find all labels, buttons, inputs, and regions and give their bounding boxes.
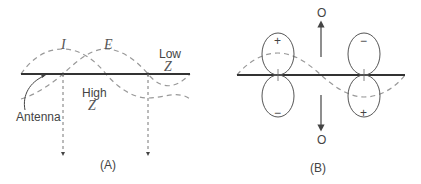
- sign-right-bottom: +: [360, 106, 367, 120]
- sign-left-bottom: −: [274, 106, 281, 120]
- top-null-label: O: [317, 6, 326, 20]
- current-label: I: [60, 37, 67, 52]
- bottom-null-label: O: [317, 133, 326, 147]
- diagram-a: I E Low Z High Z Antenna (A): [16, 37, 190, 172]
- voltage-label: E: [103, 37, 113, 52]
- caption-a: (A): [100, 158, 116, 172]
- sign-left-top: +: [274, 34, 281, 48]
- high-z-label: Z: [88, 98, 96, 113]
- diagram-canvas: I E Low Z High Z Antenna (A) + − − + O O…: [0, 0, 421, 184]
- diagram-b: + − − + O O (B): [237, 6, 405, 175]
- antenna-pointer: [24, 76, 44, 110]
- sign-right-top: −: [360, 34, 367, 48]
- low-z-label: Z: [164, 59, 172, 74]
- caption-b: (B): [310, 161, 326, 175]
- antenna-label: Antenna: [16, 110, 61, 124]
- down-arrow-icon: [146, 152, 150, 156]
- down-arrow-icon: [61, 152, 65, 156]
